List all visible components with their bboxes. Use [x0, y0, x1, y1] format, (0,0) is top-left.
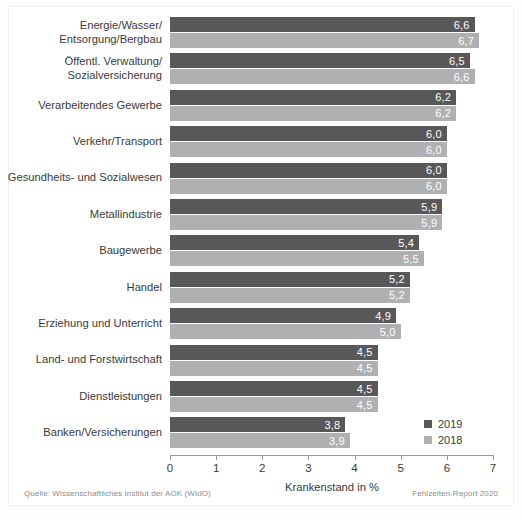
category-label: Erziehung und Unterricht [0, 317, 162, 331]
bar[interactable]: 6,0 [170, 163, 447, 178]
bar-value-label: 6,0 [426, 128, 442, 139]
bar-value-label: 5,2 [389, 290, 405, 301]
category-label: Verkehr/Transport [0, 135, 162, 149]
bar[interactable]: 4,5 [170, 381, 378, 396]
category-label: Banken/Versicherungen [0, 426, 162, 440]
bar-value-label: 5,9 [421, 201, 437, 212]
bar-value-label: 6,0 [426, 181, 442, 192]
x-tick-mark [493, 455, 494, 460]
legend-swatch-icon [424, 420, 432, 428]
bar[interactable]: 5,2 [170, 288, 410, 303]
bar-value-label: 6,2 [435, 108, 451, 119]
bar-value-label: 4,5 [357, 383, 373, 394]
bar[interactable]: 6,2 [170, 90, 456, 105]
bar-value-label: 4,5 [357, 363, 373, 374]
report-note: Fehlzeiten-Report 2020 [412, 489, 498, 498]
legend-item-2019[interactable]: 2019 [424, 416, 462, 432]
x-tick-label: 4 [343, 462, 367, 474]
category-label: Metallindustrie [0, 208, 162, 222]
bar-value-label: 3,9 [329, 435, 345, 446]
bar[interactable]: 4,5 [170, 345, 378, 360]
bar[interactable]: 5,4 [170, 235, 419, 250]
category-label: Energie/Wasser/ Entsorgung/Bergbau [0, 19, 162, 46]
category-label: Gesundheits- und Sozialwesen [0, 171, 162, 185]
bar-value-label: 6,2 [435, 92, 451, 103]
x-tick-mark [216, 455, 217, 460]
x-tick-mark [401, 455, 402, 460]
bar[interactable]: 6,0 [170, 126, 447, 141]
x-tick-mark [355, 455, 356, 460]
bar[interactable]: 6,6 [170, 69, 475, 84]
legend-label: 2019 [438, 418, 462, 430]
bar-value-label: 5,0 [380, 326, 396, 337]
x-tick-mark [262, 455, 263, 460]
bar[interactable]: 3,8 [170, 417, 345, 432]
bar-group: 6,26,2 [170, 90, 493, 124]
bar-value-label: 6,0 [426, 144, 442, 155]
category-label: Baugewerbe [0, 244, 162, 258]
bar-group: 6,06,0 [170, 126, 493, 160]
x-tick-label: 0 [158, 462, 182, 474]
x-axis-line [170, 455, 494, 456]
bar-group: 6,56,6 [170, 53, 493, 87]
bar-group: 5,45,5 [170, 235, 493, 269]
bar[interactable]: 5,5 [170, 251, 424, 266]
bar-value-label: 6,6 [454, 71, 470, 82]
category-label: Handel [0, 281, 162, 295]
bar-value-label: 4,5 [357, 399, 373, 410]
plot-area: 6,66,76,56,66,26,26,06,06,06,05,95,95,45… [170, 14, 493, 455]
bar[interactable]: 5,0 [170, 324, 401, 339]
x-tick-label: 5 [389, 462, 413, 474]
bar-value-label: 6,5 [449, 55, 465, 66]
x-tick-label: 3 [296, 462, 320, 474]
legend-swatch-icon [424, 436, 432, 444]
bar-value-label: 6,6 [454, 19, 470, 30]
bar[interactable]: 6,0 [170, 179, 447, 194]
legend-label: 2018 [438, 434, 462, 446]
x-tick-mark [170, 455, 171, 460]
bar-group: 5,95,9 [170, 199, 493, 233]
bar-group: 4,54,5 [170, 345, 493, 379]
category-label: Land- und Forstwirtschaft [0, 353, 162, 367]
x-tick-label: 7 [481, 462, 505, 474]
bar-group: 4,95,0 [170, 308, 493, 342]
bar-value-label: 5,4 [398, 237, 414, 248]
bar-value-label: 3,8 [324, 419, 340, 430]
bar[interactable]: 6,5 [170, 53, 470, 68]
bar-value-label: 5,9 [421, 217, 437, 228]
bar-value-label: 5,5 [403, 253, 419, 264]
category-label: Verarbeitendes Gewerbe [0, 99, 162, 113]
x-tick-label: 2 [250, 462, 274, 474]
bar[interactable]: 5,9 [170, 199, 442, 214]
x-tick-mark [447, 455, 448, 460]
bar-value-label: 6,0 [426, 165, 442, 176]
category-label: Dienstleistungen [0, 390, 162, 404]
bar[interactable]: 5,2 [170, 272, 410, 287]
x-tick-mark [308, 455, 309, 460]
x-tick-label: 6 [435, 462, 459, 474]
bar-value-label: 6,7 [458, 35, 474, 46]
bar-group: 6,06,0 [170, 163, 493, 197]
x-tick-label: 1 [204, 462, 228, 474]
legend-item-2018[interactable]: 2018 [424, 432, 462, 448]
bar-group: 5,25,2 [170, 272, 493, 306]
source-note: Quelle: Wissenschaftliches Institut der … [24, 489, 211, 498]
bar[interactable]: 5,9 [170, 215, 442, 230]
chart-figure: 6,66,76,56,66,26,26,06,06,06,05,95,95,45… [0, 0, 522, 520]
category-label: Öffentl. Verwaltung/ Sozialversicherung [0, 55, 162, 82]
bar[interactable]: 6,0 [170, 142, 447, 157]
bar[interactable]: 4,5 [170, 397, 378, 412]
bar[interactable]: 4,9 [170, 308, 396, 323]
bar-value-label: 5,2 [389, 274, 405, 285]
bar-value-label: 4,5 [357, 347, 373, 358]
bar[interactable]: 6,7 [170, 33, 479, 48]
bar-value-label: 4,9 [375, 310, 391, 321]
bar-group: 6,66,7 [170, 17, 493, 51]
bar[interactable]: 4,5 [170, 361, 378, 376]
bar[interactable]: 3,9 [170, 433, 350, 448]
bar[interactable]: 6,6 [170, 17, 475, 32]
chart-legend: 20192018 [424, 416, 462, 448]
bar[interactable]: 6,2 [170, 106, 456, 121]
bar-group: 4,54,5 [170, 381, 493, 415]
